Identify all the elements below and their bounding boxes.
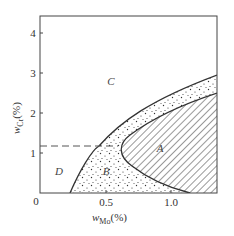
region-label-a: A — [156, 142, 164, 154]
region-label-c: C — [107, 75, 115, 87]
y-tick-2: 2 — [30, 107, 36, 119]
y-axis-label: wCr(%) — [10, 102, 25, 134]
origin-label: 0 — [33, 195, 39, 207]
y-tick-4: 4 — [30, 27, 36, 39]
y-tick-1: 1 — [30, 147, 36, 159]
phase-diagram: 4 3 2 1 0 0.5 1.0 wMo(%) wCr(%) C A B D — [0, 0, 234, 236]
x-axis-label: wMo(%) — [92, 211, 127, 226]
x-tick-1.0: 1.0 — [164, 196, 178, 208]
y-tick-3: 3 — [30, 67, 36, 79]
x-tick-0.5: 0.5 — [99, 196, 113, 208]
region-label-d: D — [54, 165, 63, 177]
region-label-b: B — [103, 165, 110, 177]
